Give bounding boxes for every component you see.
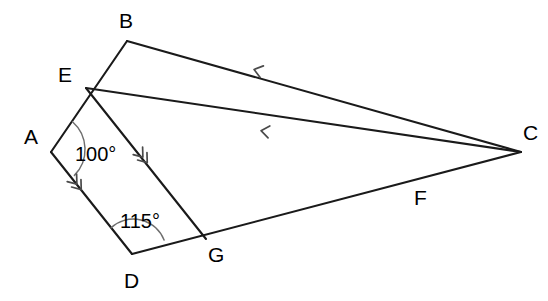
segment-AB <box>51 41 127 152</box>
segment-AD <box>51 152 132 254</box>
vertex-label-D: D <box>124 269 139 292</box>
segment-EC <box>86 88 521 152</box>
angle-label-at-D: 115° <box>120 210 160 232</box>
vertex-label-G: G <box>208 243 224 266</box>
segment-BC <box>127 41 521 152</box>
vertex-label-C: C <box>523 121 538 144</box>
arrow-on-BC <box>252 64 263 78</box>
arrow-on-EC <box>260 125 270 138</box>
geometry-figure: A B C D E F G 100° 115° <box>0 0 548 301</box>
angle-label-at-A: 100° <box>75 143 116 165</box>
vertex-label-F: F <box>414 186 427 209</box>
vertex-label-A: A <box>24 125 38 148</box>
vertex-label-E: E <box>58 63 72 86</box>
segment-DC <box>132 152 521 254</box>
figure-canvas: A B C D E F G 100° 115° <box>0 0 548 301</box>
vertex-label-B: B <box>119 9 133 32</box>
